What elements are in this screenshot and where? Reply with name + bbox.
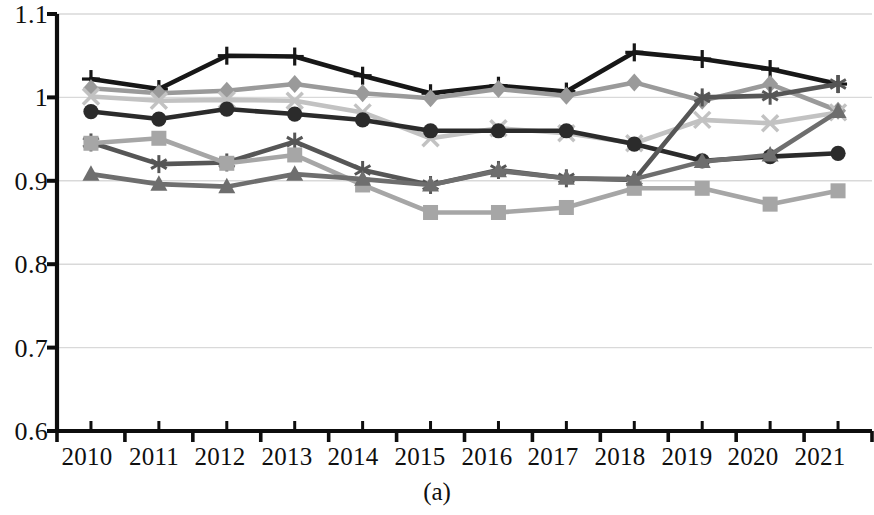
marker-plus xyxy=(625,43,643,61)
figure-caption: (a) xyxy=(0,478,874,506)
marker-circle xyxy=(491,123,506,138)
marker-circle xyxy=(355,112,370,127)
x-tick-label-2021: 2021 xyxy=(776,443,864,471)
marker-circle xyxy=(151,111,166,126)
marker-square xyxy=(423,205,438,220)
marker-plus xyxy=(286,48,304,66)
marker-circle xyxy=(219,101,234,116)
data-series-layer xyxy=(82,43,847,220)
marker-diamond xyxy=(355,84,371,102)
y-tick-label-4: 0.7 xyxy=(0,334,48,364)
series-7-triangle xyxy=(82,103,846,194)
marker-square xyxy=(763,197,778,212)
y-tick-label-5: 0.6 xyxy=(0,417,48,447)
marker-circle xyxy=(83,104,98,119)
line-chart-plot xyxy=(0,0,874,515)
series-line xyxy=(91,52,838,93)
marker-circle xyxy=(830,146,845,161)
marker-diamond xyxy=(626,73,642,91)
marker-square xyxy=(83,136,98,151)
y-tick-label-2: 0.9 xyxy=(0,167,48,197)
marker-square xyxy=(491,205,506,220)
marker-square xyxy=(831,183,846,198)
marker-circle xyxy=(287,106,302,121)
marker-plus xyxy=(354,67,372,85)
y-tick-label-0: 1.1 xyxy=(0,0,48,30)
marker-square xyxy=(559,200,574,215)
marker-plus xyxy=(218,47,236,65)
series-line xyxy=(91,97,838,144)
tick-marks xyxy=(47,14,872,442)
marker-circle xyxy=(423,123,438,138)
marker-plus xyxy=(693,50,711,68)
marker-diamond xyxy=(490,80,506,98)
axis-lines xyxy=(55,14,872,433)
marker-circle xyxy=(559,123,574,138)
y-tick-label-1: 1 xyxy=(0,83,48,113)
y-tick-label-3: 0.8 xyxy=(0,250,48,280)
marker-square xyxy=(151,131,166,146)
marker-square xyxy=(219,156,234,171)
chart-figure: 1.1 1 0.9 0.8 0.7 0.6 2010 2011 2012 201… xyxy=(0,0,874,515)
marker-square xyxy=(695,181,710,196)
marker-circle xyxy=(627,137,642,152)
marker-diamond xyxy=(287,75,303,93)
marker-square xyxy=(287,147,302,162)
